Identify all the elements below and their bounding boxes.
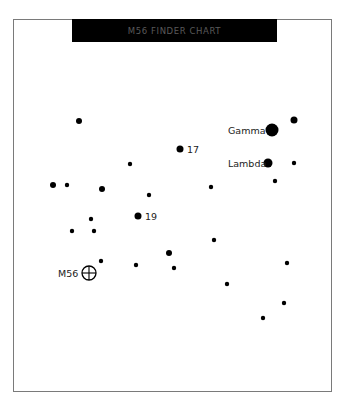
star (128, 162, 132, 166)
star (225, 282, 229, 286)
stars-group (50, 117, 298, 321)
star (99, 259, 103, 263)
star (166, 250, 172, 256)
star (134, 263, 138, 267)
star (172, 266, 176, 270)
star-gamma (266, 124, 279, 137)
star (273, 179, 277, 183)
star (99, 186, 105, 192)
star (282, 301, 286, 305)
label-gamma: Gamma (228, 125, 266, 136)
star (212, 238, 216, 242)
star (291, 117, 298, 124)
star (209, 185, 213, 189)
label-lambda: Lambda (228, 158, 266, 169)
star (147, 193, 151, 197)
star (92, 229, 96, 233)
star-19 (135, 213, 142, 220)
star (65, 183, 69, 187)
star (50, 182, 56, 188)
star-field: Gamma Lambda 17 19 M56 (0, 0, 346, 407)
star (292, 161, 296, 165)
label-17: 17 (187, 144, 199, 155)
label-19: 19 (145, 211, 157, 222)
star (76, 118, 82, 124)
star-17 (177, 146, 184, 153)
star (261, 316, 265, 320)
label-m56: M56 (58, 268, 78, 279)
m56-target (82, 266, 96, 280)
star (285, 261, 289, 265)
star (89, 217, 93, 221)
star (70, 229, 74, 233)
